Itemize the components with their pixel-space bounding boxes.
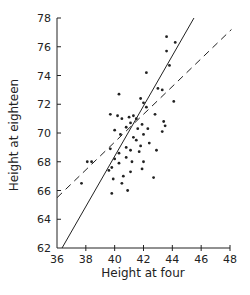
data-point xyxy=(168,64,171,67)
y-tick-label: 64 xyxy=(37,213,51,226)
data-point xyxy=(118,93,121,96)
y-tick-label: 72 xyxy=(37,98,51,111)
y-tick-label: 76 xyxy=(37,41,51,54)
x-tick-label: 38 xyxy=(79,253,93,266)
data-point xyxy=(162,120,165,123)
data-points xyxy=(80,35,177,194)
data-point xyxy=(135,139,138,142)
data-point xyxy=(165,35,168,38)
data-point xyxy=(90,160,93,163)
data-point xyxy=(109,147,112,150)
data-point xyxy=(109,113,112,116)
data-point xyxy=(129,170,132,173)
data-point xyxy=(172,100,175,103)
data-point xyxy=(113,157,116,160)
data-point xyxy=(139,97,142,100)
data-point xyxy=(161,130,164,133)
solid-regression-line xyxy=(62,18,194,248)
data-point xyxy=(139,145,142,148)
data-point xyxy=(145,71,148,74)
data-point xyxy=(154,113,157,116)
y-axis-label: Height at eighteen xyxy=(7,79,21,191)
data-point xyxy=(148,142,151,145)
data-point xyxy=(113,129,116,132)
data-point xyxy=(132,114,135,117)
data-point xyxy=(129,122,132,125)
dashed-regression-line xyxy=(57,30,231,198)
data-point xyxy=(142,101,145,104)
data-point xyxy=(142,160,145,163)
data-point xyxy=(120,117,123,120)
data-point xyxy=(132,136,135,139)
data-point xyxy=(145,106,148,109)
data-point xyxy=(142,133,145,136)
y-tick-label: 62 xyxy=(37,242,51,255)
data-point xyxy=(138,150,141,153)
data-point xyxy=(120,182,123,185)
y-tick-label: 68 xyxy=(37,156,51,169)
y-tick-label: 70 xyxy=(37,127,51,140)
data-point xyxy=(157,87,160,90)
data-point xyxy=(135,117,138,120)
data-point xyxy=(165,50,168,53)
data-point xyxy=(131,160,134,163)
data-point xyxy=(110,192,113,195)
data-point xyxy=(118,162,121,165)
data-point xyxy=(118,152,121,155)
data-point xyxy=(136,127,139,130)
data-point xyxy=(141,168,144,171)
x-tick-label: 36 xyxy=(50,253,64,266)
data-point xyxy=(112,178,115,181)
y-tick-label: 74 xyxy=(37,70,51,83)
data-point xyxy=(125,126,128,129)
data-point xyxy=(86,160,89,163)
data-point xyxy=(174,41,177,44)
x-tick-label: 46 xyxy=(194,253,208,266)
x-tick-label: 44 xyxy=(165,253,179,266)
data-point xyxy=(110,166,113,169)
y-tick-label: 78 xyxy=(37,12,51,25)
data-point xyxy=(80,182,83,185)
data-point xyxy=(116,114,119,117)
x-tick-label: 40 xyxy=(108,253,122,266)
data-point xyxy=(126,189,129,192)
y-tick-label: 66 xyxy=(37,185,51,198)
data-point xyxy=(161,88,164,91)
x-tick-label: 48 xyxy=(223,253,237,266)
data-point xyxy=(146,127,149,130)
x-tick-label: 42 xyxy=(137,253,151,266)
data-point xyxy=(108,169,111,172)
data-point xyxy=(129,149,132,152)
data-point xyxy=(152,176,155,179)
regression-lines xyxy=(57,18,231,248)
data-point xyxy=(119,133,122,136)
data-point xyxy=(128,116,131,119)
scatter-chart: 36384042444648 626466687072747678 Height… xyxy=(0,0,250,295)
data-point xyxy=(164,124,167,127)
data-point xyxy=(155,149,158,152)
data-point xyxy=(125,146,128,149)
x-axis-label: Height at four xyxy=(101,266,185,280)
data-point xyxy=(125,156,128,159)
data-point xyxy=(141,123,144,126)
data-point xyxy=(122,175,125,178)
